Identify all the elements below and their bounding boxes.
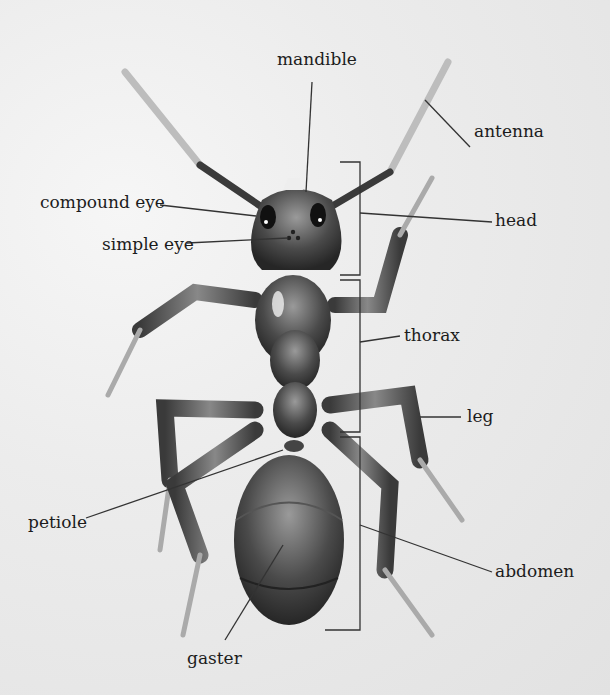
label-head: head — [495, 212, 537, 229]
thorax-rear — [273, 382, 317, 438]
label-petiole: petiole — [28, 514, 87, 531]
ant-illustration — [0, 0, 610, 695]
thorax-mid — [270, 330, 320, 390]
label-antenna: antenna — [474, 123, 544, 140]
label-compound-eye: compound eye — [40, 194, 165, 211]
head-shape — [251, 189, 342, 270]
label-abdomen: abdomen — [495, 563, 574, 580]
ant-diagram: mandible antenna compound eye head simpl… — [0, 0, 610, 695]
label-gaster: gaster — [187, 650, 242, 667]
gaster-shape — [234, 455, 344, 625]
label-mandible: mandible — [277, 51, 357, 68]
compound-eye-right — [310, 203, 326, 227]
label-simple-eye: simple eye — [102, 236, 194, 253]
label-thorax: thorax — [404, 327, 460, 344]
compound-eye-left — [260, 205, 276, 229]
label-leg: leg — [467, 408, 493, 425]
antenna-right — [312, 62, 448, 218]
petiole-shape — [284, 440, 304, 452]
